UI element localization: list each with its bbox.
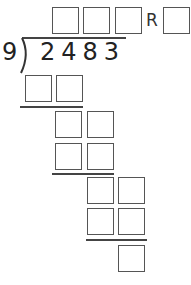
- dividend: 2483: [40, 40, 125, 64]
- work-box-r4-c1[interactable]: [87, 177, 114, 204]
- remainder-label: R: [146, 11, 158, 29]
- work-box-r5-c1[interactable]: [87, 208, 114, 235]
- quotient-digit-box-3[interactable]: [115, 7, 142, 34]
- quotient-digit-box-2[interactable]: [83, 7, 110, 34]
- subtraction-line-3: [86, 239, 147, 241]
- work-box-r3-c2[interactable]: [87, 143, 114, 170]
- work-box-r1-c2[interactable]: [56, 75, 83, 102]
- divisor: 9: [2, 40, 20, 64]
- work-box-r2-c2[interactable]: [87, 111, 114, 138]
- work-box-r5-c2[interactable]: [118, 208, 145, 235]
- work-box-r6-c1[interactable]: [118, 245, 145, 272]
- work-box-r4-c2[interactable]: [118, 177, 145, 204]
- subtraction-line-1: [20, 106, 83, 108]
- work-box-r1-c1[interactable]: [25, 75, 52, 102]
- quotient-digit-box-1[interactable]: [52, 7, 79, 34]
- remainder-box[interactable]: [163, 7, 190, 34]
- work-box-r3-c1[interactable]: [55, 143, 82, 170]
- subtraction-line-2: [52, 173, 114, 175]
- work-box-r2-c1[interactable]: [55, 111, 82, 138]
